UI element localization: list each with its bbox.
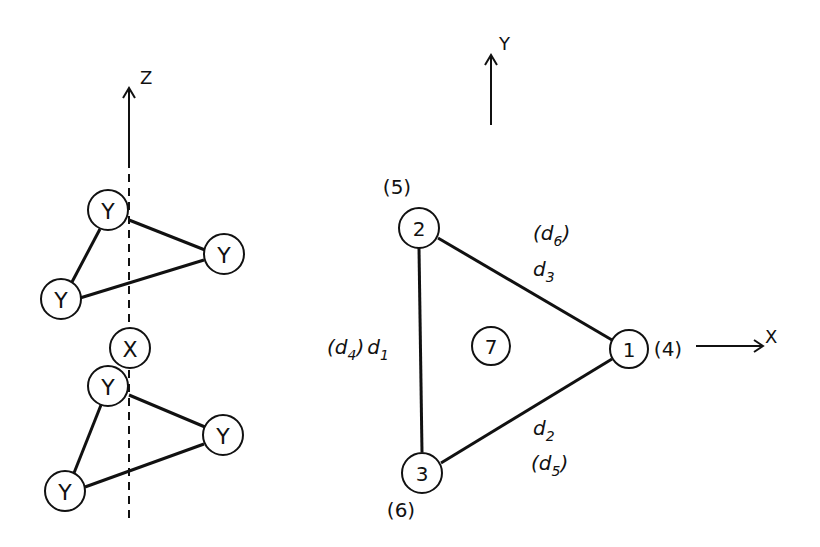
svg-text:2: 2 [413, 217, 426, 241]
y-axis-label: Y [498, 33, 511, 54]
edge-label-d3: (d6) d3 [533, 221, 570, 285]
x-axis: X [696, 326, 777, 352]
z-axis: Z [123, 67, 152, 518]
svg-text:Y: Y [100, 375, 115, 400]
upper-atom-right: Y [204, 234, 244, 274]
y-axis: Y [485, 33, 511, 125]
svg-text:d2: d2 [533, 416, 555, 444]
svg-text:Y: Y [57, 480, 72, 505]
svg-text:Y: Y [215, 424, 230, 449]
svg-text:(d6): (d6) [533, 221, 570, 249]
svg-text:Y: Y [100, 199, 115, 224]
node-3-alt-label: (6) [387, 498, 415, 522]
node-2-alt-label: (5) [383, 175, 411, 199]
node-2: 2 [399, 208, 439, 248]
node-1: 1 [610, 330, 648, 368]
svg-text:X: X [122, 337, 137, 362]
svg-text:Y: Y [53, 288, 68, 313]
svg-text:3: 3 [416, 462, 429, 486]
edge-d3 [438, 238, 612, 340]
lower-atom-left: Y [45, 471, 85, 511]
edge-label-d1: (d4)d1 [327, 335, 389, 363]
node-1-alt-label: (4) [654, 337, 682, 361]
lower-atom-top: Y [88, 366, 128, 406]
svg-text:d3: d3 [533, 257, 555, 285]
svg-text:7: 7 [485, 335, 498, 359]
node-7-center: 7 [472, 327, 510, 365]
x-axis-label: X [765, 326, 777, 347]
right-triangle-diagram: Y X 2 1 3 7 (5) (4) (6) [327, 33, 777, 522]
svg-text:1: 1 [623, 338, 636, 362]
svg-text:(d5): (d5) [531, 451, 568, 479]
center-atom-x: X [110, 328, 150, 368]
diagram-canvas: Z Y Y Y X [0, 0, 820, 547]
edge-label-d2: d2 (d5) [531, 416, 568, 479]
edge-d1 [419, 248, 422, 452]
upper-atom-top: Y [88, 190, 128, 230]
z-axis-label: Z [140, 67, 152, 88]
lower-triangle-bonds [74, 395, 205, 487]
left-molecule: Z Y Y Y X [41, 67, 244, 518]
upper-triangle-bonds [72, 220, 205, 298]
edge-d2 [441, 359, 612, 463]
upper-atom-left: Y [41, 279, 81, 319]
lower-atom-right: Y [203, 415, 243, 455]
svg-text:(d4)d1: (d4)d1 [327, 335, 389, 363]
svg-text:Y: Y [216, 243, 231, 268]
node-3: 3 [402, 453, 442, 493]
